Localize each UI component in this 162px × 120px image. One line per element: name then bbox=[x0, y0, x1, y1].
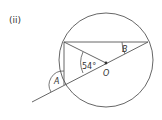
angle-label-b: B bbox=[122, 45, 128, 54]
angle-label-54: 54° bbox=[82, 62, 96, 71]
circle-theorem-diagram: (ii) 54° O B A bbox=[0, 0, 162, 120]
angle-label-a: A bbox=[53, 77, 59, 86]
diameter-line bbox=[32, 42, 148, 102]
radius-line bbox=[64, 42, 106, 63]
part-label: (ii) bbox=[9, 15, 21, 25]
center-label-o: O bbox=[103, 69, 109, 78]
center-point bbox=[105, 62, 108, 65]
circle bbox=[59, 13, 153, 107]
